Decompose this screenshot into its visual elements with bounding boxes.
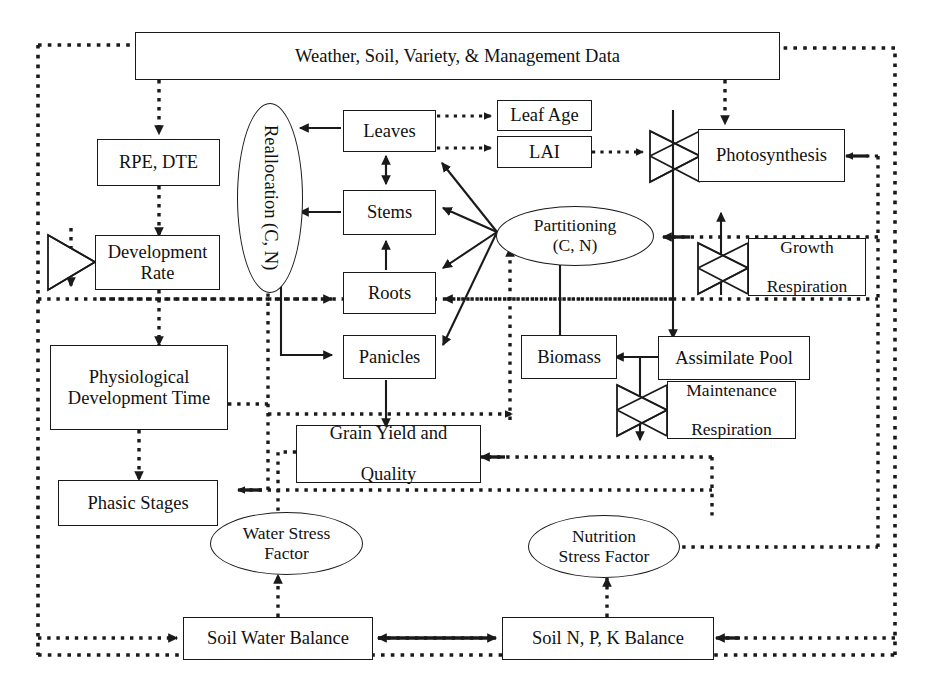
node-photosynthesis[interactable]: Photosynthesis — [698, 129, 845, 182]
node-stems[interactable]: Stems — [343, 190, 436, 235]
node-lai[interactable]: LAI — [497, 136, 592, 168]
valve-maintenance-respiration — [617, 385, 667, 436]
node-assimilate-pool[interactable]: Assimilate Pool — [658, 336, 810, 380]
node-reallocation[interactable]: Reallocation (C, N) — [237, 103, 303, 293]
node-soil-npk-balance[interactable]: Soil N, P, K Balance — [502, 617, 714, 660]
node-maintenance-respiration[interactable]: Maintenance Respiration — [667, 381, 796, 439]
valve-photosynthesis — [650, 131, 700, 182]
node-weather-soil-variety-management[interactable]: Weather, Soil, Variety, & Management Dat… — [135, 32, 780, 80]
node-nutrition-stress-factor[interactable]: Nutrition Stress Factor — [528, 515, 680, 578]
node-phasic-stages[interactable]: Phasic Stages — [58, 480, 218, 526]
edge-partitioning-stems — [443, 208, 497, 232]
node-soil-water-balance[interactable]: Soil Water Balance — [183, 617, 373, 660]
node-development-rate[interactable]: Development Rate — [95, 235, 220, 290]
node-biomass[interactable]: Biomass — [521, 335, 617, 379]
node-rpe-dte[interactable]: RPE, DTE — [97, 139, 220, 186]
node-partitioning[interactable]: Partitioning (C, N) — [496, 206, 654, 266]
node-roots[interactable]: Roots — [343, 272, 436, 314]
edge-partitioning-leaves — [442, 163, 497, 232]
node-growth-respiration[interactable]: Growth Respiration — [748, 238, 866, 296]
node-physiological-development-time[interactable]: Physiological Development Time — [50, 345, 228, 430]
node-grain-yield-and-quality[interactable]: Grain Yield and Quality — [296, 425, 481, 483]
node-panicles[interactable]: Panicles — [343, 335, 436, 379]
valve-growth-respiration — [698, 243, 748, 294]
node-water-stress-factor[interactable]: Water Stress Factor — [210, 512, 363, 575]
node-leaf-age[interactable]: Leaf Age — [497, 100, 592, 131]
diagram-canvas: Weather, Soil, Variety, & Management Dat… — [0, 0, 932, 695]
node-leaves[interactable]: Leaves — [343, 110, 436, 152]
valve-development-rate-left — [48, 235, 95, 290]
